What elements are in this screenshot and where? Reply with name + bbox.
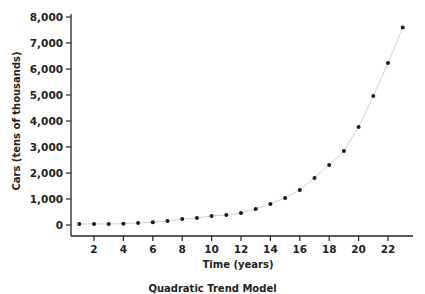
chart-caption: Quadratic Trend Model xyxy=(0,283,425,294)
data-point xyxy=(327,163,331,167)
y-tick-label: 8,000 xyxy=(30,11,63,23)
x-tick-label: 4 xyxy=(120,243,127,255)
data-point xyxy=(401,25,405,29)
data-point xyxy=(166,219,170,223)
y-axis: 01,0002,0003,0004,0005,0006,0007,0008,00… xyxy=(30,11,71,236)
x-tick-label: 16 xyxy=(292,243,307,255)
data-point xyxy=(342,149,346,153)
data-point xyxy=(121,222,125,226)
data-point xyxy=(371,94,375,98)
data-point xyxy=(224,213,228,217)
trend-line xyxy=(79,27,402,224)
y-tick-label: 3,000 xyxy=(30,141,63,153)
data-point xyxy=(77,222,81,226)
x-tick-label: 20 xyxy=(351,243,366,255)
data-point xyxy=(195,216,199,220)
y-tick-label: 5,000 xyxy=(30,89,63,101)
x-tick-label: 18 xyxy=(322,243,337,255)
x-tick-label: 10 xyxy=(204,243,219,255)
data-point xyxy=(357,125,361,129)
y-tick-label: 4,000 xyxy=(30,115,63,127)
data-point xyxy=(283,196,287,200)
data-point xyxy=(151,220,155,224)
y-tick-label: 1,000 xyxy=(30,193,63,205)
data-points xyxy=(77,25,404,226)
y-axis-title: Cars (tens of thousands) xyxy=(11,51,22,190)
data-point xyxy=(386,61,390,65)
x-tick-label: 14 xyxy=(263,243,278,255)
data-point xyxy=(268,202,272,206)
data-point xyxy=(107,222,111,226)
data-point xyxy=(180,217,184,221)
data-point xyxy=(210,214,214,218)
x-tick-label: 22 xyxy=(381,243,396,255)
x-axis-title: Time (years) xyxy=(202,259,273,270)
data-point xyxy=(239,211,243,215)
x-tick-label: 12 xyxy=(234,243,249,255)
y-tick-label: 6,000 xyxy=(30,63,63,75)
data-point xyxy=(313,176,317,180)
x-tick-label: 2 xyxy=(90,243,97,255)
y-tick-label: 7,000 xyxy=(30,37,63,49)
y-tick-label: 0 xyxy=(56,219,63,231)
y-tick-label: 2,000 xyxy=(30,167,63,179)
x-tick-label: 6 xyxy=(149,243,156,255)
data-point xyxy=(92,222,96,226)
x-axis: 246810121416182022 xyxy=(71,236,413,255)
data-point xyxy=(136,221,140,225)
data-point xyxy=(298,188,302,192)
x-tick-label: 8 xyxy=(179,243,186,255)
data-point xyxy=(254,207,258,211)
